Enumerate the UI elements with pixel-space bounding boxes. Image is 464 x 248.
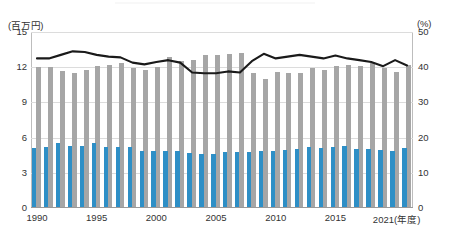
right-axis-tick-label: 10 [418,167,429,178]
x-axis-tick-label: 1990 [26,212,47,223]
chart-container: (百万円) (%) 15129630 50403020100 199019952… [0,0,464,248]
x-axis-tick-label-last: 2021(年度) [373,212,420,226]
right-axis-tick-label: 20 [418,132,429,143]
plot-area: 15129630 50403020100 1990199520002005201… [31,32,413,208]
x-axis-tick-label: 2005 [205,212,226,223]
left-axis-tick-label: 15 [16,26,27,37]
x-axis-tick-label: 2000 [146,212,167,223]
top-artifact [115,2,315,4]
x-axis-line [31,207,413,208]
left-axis-tick-label: 3 [22,167,27,178]
left-axis-tick-label: 9 [22,96,27,107]
x-axis-tick-label: 2010 [265,212,286,223]
right-axis-tick-label: 40 [418,61,429,72]
right-axis-tick-label: 30 [418,96,429,107]
left-axis-tick-label: 12 [16,61,27,72]
left-axis-tick-label: 6 [22,132,27,143]
right-axis-tick-label: 50 [418,26,429,37]
x-axis-tick-label: 1995 [86,212,107,223]
ratio-line-series [31,32,413,208]
x-axis-tick-label: 2015 [325,212,346,223]
